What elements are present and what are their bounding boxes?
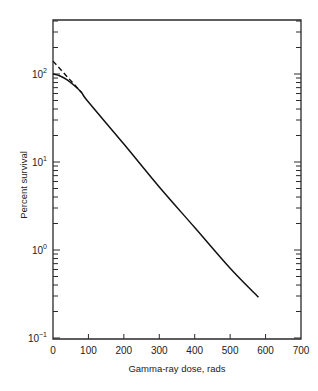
x-tick-label: 100	[80, 345, 97, 356]
x-tick-label: 600	[257, 345, 274, 356]
y-axis-ticks: 10−1100101102	[28, 21, 301, 344]
x-tick-label: 700	[293, 345, 310, 356]
x-tick-label: 500	[222, 345, 239, 356]
plot-frame	[53, 20, 301, 339]
survival-chart: 0100200300400500600700 10−1100101102 Gam…	[0, 0, 318, 391]
y-tick-label: 102	[32, 67, 47, 80]
x-axis-ticks: 0100200300400500600700	[50, 334, 310, 356]
axes-box	[53, 20, 301, 339]
y-tick-label: 10−1	[28, 331, 47, 344]
x-tick-label: 0	[50, 345, 56, 356]
x-tick-label: 300	[151, 345, 168, 356]
y-axis-title: Percent survival	[18, 151, 29, 219]
y-tick-label: 101	[32, 155, 47, 168]
x-tick-label: 200	[116, 345, 133, 356]
survival-curve	[53, 74, 258, 297]
y-tick-label: 100	[32, 243, 47, 256]
x-axis-title: Gamma-ray dose, rads	[128, 363, 225, 374]
x-tick-label: 400	[186, 345, 203, 356]
data-series	[53, 61, 258, 297]
